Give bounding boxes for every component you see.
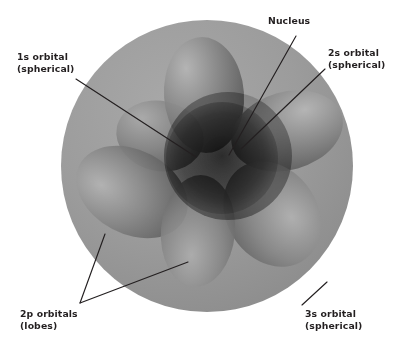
label-1s-orbital: 1s orbital (spherical)	[17, 51, 74, 74]
diagram-canvas: Nucleus 1s orbital (spherical) 2s orbita…	[0, 0, 398, 350]
label-2s-line-1: 2s orbital	[328, 47, 379, 58]
label-3s-line-1: 3s orbital	[305, 308, 356, 319]
label-2s-line-2: (spherical)	[328, 59, 385, 70]
label-2p-line-2: (lobes)	[20, 320, 57, 331]
label-3s-line-2: (spherical)	[305, 320, 362, 331]
atomic-orbital-diagram: Nucleus 1s orbital (spherical) 2s orbita…	[0, 0, 398, 350]
label-2p-orbitals: 2p orbitals (lobes)	[20, 308, 78, 331]
leader-line-3s	[302, 282, 327, 305]
label-1s-line-2: (spherical)	[17, 63, 74, 74]
nucleus-core	[166, 102, 278, 214]
label-3s-orbital: 3s orbital (spherical)	[305, 308, 362, 331]
label-nucleus: Nucleus	[268, 15, 311, 26]
label-1s-line-1: 1s orbital	[17, 51, 68, 62]
label-nucleus-line-1: Nucleus	[268, 15, 311, 26]
label-2p-line-1: 2p orbitals	[20, 308, 78, 319]
label-2s-orbital: 2s orbital (spherical)	[328, 47, 385, 70]
